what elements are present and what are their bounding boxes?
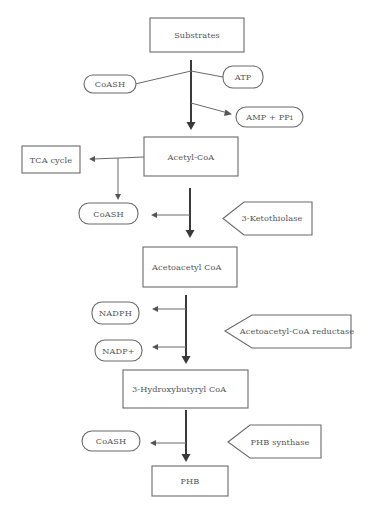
pill-nadph: NADPH [92,302,139,324]
arrowhead-icon [115,194,121,200]
pill-coash-1: CoASH [84,75,136,93]
node-acetoacetyl-coa-label: Acetoacetyl CoA [151,262,222,272]
pill-atp-label: ATP [234,72,252,82]
pill-coash-2-label: CoASH [93,209,123,219]
node-phb: PHB [152,466,228,496]
phb-pathway-diagram: Substrates CoASH ATP AMP + PPi Acetyl-Co… [0,0,369,516]
pill-coash-1-label: CoASH [95,79,125,89]
pill-coash-3: CoASH [82,431,140,451]
connector-coash-1 [135,71,191,84]
main-arrow-hydroxybutyryl-to-phb [182,410,191,462]
pill-coash-3-label: CoASH [96,436,126,446]
branch-to-coash-2 [151,212,190,218]
arrow-acetyl-coa-to-tca [89,156,144,162]
pill-nadph-label: NADPH [99,308,132,318]
main-arrow-acetyl-coa-to-acetoacetyl-coa [186,188,195,238]
pill-coash-2: CoASH [79,203,138,224]
pill-nadp-plus: NADP+ [95,340,142,361]
node-tca-cycle-label: TCA cycle [30,155,72,165]
branch-to-nadph [152,306,186,312]
arrowhead-icon [187,122,196,130]
connector-atp [191,71,223,77]
pill-amp-ppi: AMP + PPi [236,107,303,127]
arrowhead-icon [150,440,156,446]
arrow-branch-to-coash-2 [115,158,121,200]
node-substrates: Substrates [150,18,244,52]
node-3-hydroxybutyryl-coa: 3-Hydroxybutyryl CoA [123,370,248,408]
node-acetyl-coa: Acetyl-CoA [144,137,238,176]
enzyme-acetoacetyl-coa-reductase: Acetoacetyl-CoA reductase [225,315,354,348]
arrowhead-icon [89,156,95,162]
arrowhead-icon [182,454,191,462]
branch-to-nadp-plus [152,344,186,350]
arrowhead-icon [151,212,157,218]
pill-amp-ppi-label: AMP + PPi [245,112,293,122]
arrowhead-icon [152,344,158,350]
pill-nadp-plus-label: NADP+ [102,346,135,356]
arrowhead-icon [186,230,195,238]
main-arrow-substrates-to-acetyl-coa [187,60,196,130]
enzyme-3-ketothiolase: 3-Ketothiolase [223,202,312,235]
branch-to-coash-3 [150,440,186,446]
branch-amp-ppi [191,103,232,116]
pill-atp: ATP [223,66,263,88]
arrowhead-icon [224,110,232,117]
main-arrow-acetoacetyl-to-hydroxybutyryl [182,295,191,364]
arrowhead-icon [182,356,191,364]
node-tca-cycle: TCA cycle [22,146,80,173]
node-acetoacetyl-coa: Acetoacetyl CoA [143,247,237,287]
node-hydroxybutyryl-coa-label: 3-Hydroxybutyryl CoA [132,384,226,394]
enzyme-reductase-label: Acetoacetyl-CoA reductase [239,326,355,336]
enzyme-3-ketothiolase-label: 3-Ketothiolase [242,213,303,223]
node-acetyl-coa-label: Acetyl-CoA [167,152,215,162]
arrowhead-icon [152,306,158,312]
node-phb-label: PHB [181,476,200,486]
enzyme-phb-synthase-label: PHB synthase [250,437,309,447]
enzyme-phb-synthase: PHB synthase [228,425,321,458]
node-substrates-label: Substrates [174,30,220,40]
